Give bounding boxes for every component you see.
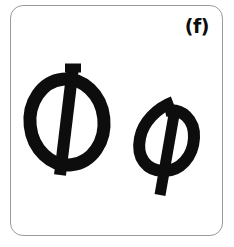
lowercase-phi-icon (131, 89, 203, 195)
glyph-stage (11, 6, 224, 237)
figure-panel: (f) (0, 0, 234, 247)
lowercase-phi-glyph (131, 89, 203, 195)
uppercase-phi-icon (23, 63, 111, 175)
uppercase-phi-glyph (23, 63, 111, 175)
panel-frame: (f) (10, 5, 223, 236)
